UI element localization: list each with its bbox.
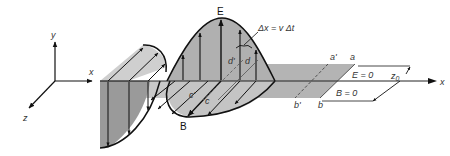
- magnetic-field-lobe: B: [151, 81, 275, 132]
- propagation-arrowhead: [428, 78, 437, 84]
- magnetic-field-label: B: [180, 121, 187, 132]
- propagation-x-label: x: [439, 77, 445, 87]
- y-axis-label: y: [50, 30, 56, 40]
- e-zero-label: E = 0: [352, 70, 373, 80]
- x-axis-label: x: [88, 67, 94, 77]
- z-axis-label: z: [22, 113, 28, 123]
- point-a: a: [350, 52, 355, 62]
- b-zero-label: B = 0: [336, 88, 357, 98]
- point-b: b: [318, 100, 323, 110]
- electric-field-lobe: E: [167, 6, 275, 81]
- z-axis-arrow: [29, 81, 55, 108]
- point-c: c: [205, 96, 210, 106]
- point-d-prime: d': [228, 56, 235, 66]
- point-b-prime: b': [294, 100, 301, 110]
- point-a-prime: a': [330, 52, 337, 62]
- electric-field-label: E: [217, 6, 224, 17]
- coordinate-axes: y x z: [22, 30, 94, 123]
- displacement-label: Δx = v Δt: [257, 23, 295, 33]
- point-c-prime: c': [189, 90, 196, 100]
- z0-label: z0: [390, 71, 400, 82]
- em-wave-diagram: y x z E: [0, 0, 450, 156]
